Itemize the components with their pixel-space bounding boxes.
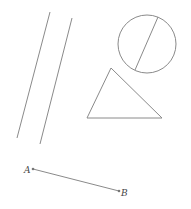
triangle xyxy=(87,68,162,118)
circle xyxy=(118,15,176,73)
parallel-line-1 xyxy=(17,12,50,138)
geometry-diagram: A B xyxy=(0,0,191,209)
label-b: B xyxy=(120,188,128,198)
point-a-icon xyxy=(32,168,35,171)
circle-chord xyxy=(135,17,158,70)
parallel-line-2 xyxy=(40,18,72,144)
label-a: A xyxy=(23,165,31,175)
segment-ab xyxy=(33,169,119,191)
point-b-icon xyxy=(118,190,121,193)
